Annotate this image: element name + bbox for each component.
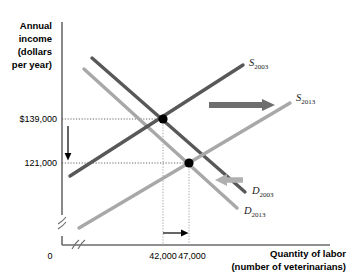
curve-label-supply-2013-subscript: 2013 xyxy=(301,98,316,106)
supply-shift-arrow-icon xyxy=(209,99,275,111)
y-tick-label-121000: 121,000 xyxy=(24,158,57,168)
y-axis-title: Annual income (dollars per year) xyxy=(12,20,52,70)
equilibrium-point-2013 xyxy=(184,158,193,167)
y-axis-title-line-3: (dollars xyxy=(18,46,52,57)
curve-label-supply-2013: S2013 xyxy=(296,92,316,106)
y-axis-title-line-4: per year) xyxy=(12,59,52,70)
equilibrium-point-2003 xyxy=(158,114,167,123)
income-decrease-arrow-icon xyxy=(65,126,72,161)
y-axis-title-line-1: Annual xyxy=(20,20,52,31)
x-tick-label-42000: 42,000 xyxy=(149,251,177,261)
y-tick-label-139000: $139,000 xyxy=(19,114,57,124)
curve-demand-2013 xyxy=(84,69,237,208)
x-tick-label-47000: 47,000 xyxy=(178,251,206,261)
y-axis-break-mark xyxy=(58,217,66,229)
x-axis-title-line-1: Quantity of labor xyxy=(270,248,346,259)
x-axis-title-line-2: (number of veterinarians) xyxy=(231,261,346,272)
origin-label: 0 xyxy=(47,251,52,261)
supply-demand-figure: Annual income (dollars per year) Quantit… xyxy=(0,0,352,280)
curve-supply-2013 xyxy=(79,103,290,228)
curve-label-demand-2013: D2013 xyxy=(243,205,266,219)
y-axis-title-line-2: income xyxy=(19,33,52,44)
quantity-increase-arrow-icon xyxy=(163,230,189,237)
figure-canvas: Annual income (dollars per year) Quantit… xyxy=(0,0,352,280)
curve-label-supply-2003-subscript: 2003 xyxy=(254,63,269,71)
curve-label-demand-2003: D2003 xyxy=(251,185,274,199)
curve-label-supply-2003: S2003 xyxy=(249,57,269,71)
curve-label-demand-2003-subscript: 2003 xyxy=(260,191,275,199)
x-axis-title: Quantity of labor (number of veterinaria… xyxy=(231,248,346,272)
curve-label-demand-2013-subscript: 2013 xyxy=(252,211,267,219)
